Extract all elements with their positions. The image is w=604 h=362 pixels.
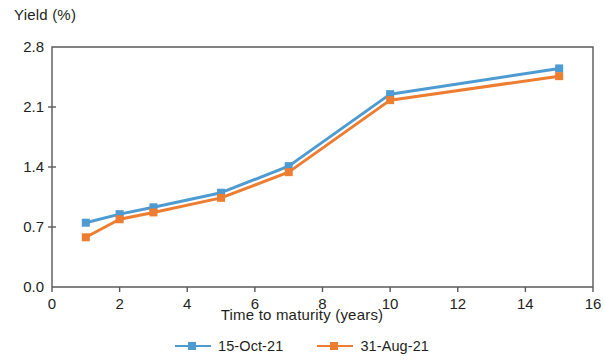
y-tick-label: 1.4 xyxy=(0,159,44,174)
data-point-marker xyxy=(149,208,157,216)
data-point-marker xyxy=(82,233,90,241)
y-tick-label: 2.1 xyxy=(0,99,44,114)
data-point-marker xyxy=(386,96,394,104)
legend-swatch-icon xyxy=(317,340,353,352)
x-axis-title: Time to maturity (years) xyxy=(0,306,604,323)
data-point-marker xyxy=(82,219,90,227)
legend-label: 31-Aug-21 xyxy=(360,338,429,354)
data-point-marker xyxy=(217,194,225,202)
chart-legend: 15-Oct-2131-Aug-21 xyxy=(0,338,604,354)
data-point-marker xyxy=(555,72,563,80)
legend-swatch-icon xyxy=(175,340,211,352)
data-point-marker xyxy=(285,168,293,176)
legend-label: 15-Oct-21 xyxy=(218,338,283,354)
series-line-1 xyxy=(86,68,559,222)
y-tick-label: 0.7 xyxy=(0,219,44,234)
legend-entry-1[interactable]: 15-Oct-21 xyxy=(175,338,283,354)
y-tick-label: 2.8 xyxy=(0,39,44,54)
y-tick-label: 0.0 xyxy=(0,279,44,294)
data-point-marker xyxy=(116,215,124,223)
yield-curve-chart: Yield (%) 0.00.71.42.12.8 0246810121416 … xyxy=(0,0,604,362)
data-point-marker xyxy=(555,64,563,72)
legend-entry-2[interactable]: 31-Aug-21 xyxy=(317,338,429,354)
